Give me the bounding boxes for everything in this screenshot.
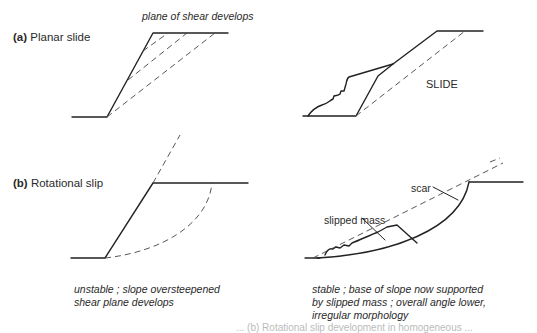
slipped-mass-label: slipped mass: [324, 215, 385, 226]
panel-a-tag: (a): [13, 31, 27, 43]
original-slope-line: [313, 163, 503, 258]
planar-slide-debris: [308, 64, 393, 116]
right-note-line-1: stable ; base of slope now supported: [312, 283, 486, 296]
panel-b-title: (b) Rotational slip: [13, 178, 103, 190]
scar-label: scar: [411, 183, 431, 194]
panel-b-tag: (b): [13, 177, 28, 189]
planar-slide-profile: [303, 31, 483, 116]
left-note-line-1: unstable ; slope oversteepened: [74, 283, 220, 296]
panel-b-title-text: Rotational slip: [31, 177, 103, 189]
left-note-line-2: shear plane develops: [74, 296, 220, 309]
slide-label: SLIDE: [426, 79, 458, 90]
slide-shear-plane: [356, 31, 465, 116]
slope-projection-right: [490, 158, 500, 162]
panel-a-title-text: Planar slide: [30, 31, 90, 43]
right-note-line-2: by slipped mass ; overall angle lower,: [312, 296, 486, 309]
shear-plane-3: [143, 33, 168, 51]
right-note: stable ; base of slope now supported by …: [312, 283, 486, 322]
right-note-line-3: irregular morphology: [312, 309, 486, 322]
rotational-slope-profile: [71, 183, 248, 258]
shear-plane-annotation: plane of shear develops: [142, 10, 254, 23]
potential-slip-arc: [105, 183, 212, 258]
slope-projection-line: [153, 135, 180, 183]
figure-caption-cutoff: ... (b) Rotational slip development in h…: [236, 322, 473, 333]
scar-pointer: [433, 187, 458, 200]
shear-plane-2: [128, 33, 187, 80]
shear-plane-1: [107, 33, 215, 117]
left-note: unstable ; slope oversteepened shear pla…: [74, 283, 220, 309]
panel-a-title: (a) Planar slide: [13, 32, 90, 44]
planar-slope-profile: [72, 33, 228, 117]
